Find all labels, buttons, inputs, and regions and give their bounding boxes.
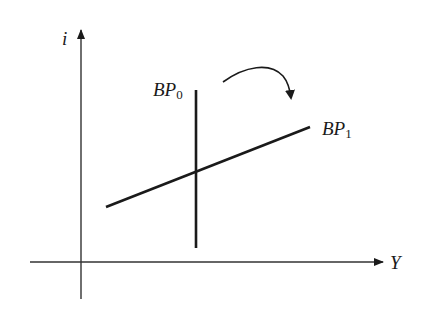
bp1-label-sub: 1 [345,126,352,141]
x-axis-label: Y [390,252,403,273]
rotation-arrow-icon [223,67,291,98]
bp1-label-main: BP [322,118,346,139]
bp0-label: BP0 [153,79,183,102]
y-axis-label: i [62,28,67,49]
diagram-canvas: i Y BP0 BP1 [0,0,425,312]
bp0-label-main: BP [153,79,177,100]
bp0-label-sub: 0 [176,87,183,102]
bp1-curve [106,127,310,207]
bp1-label: BP1 [322,118,352,141]
